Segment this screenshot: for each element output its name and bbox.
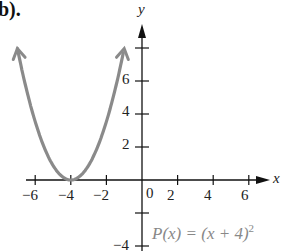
origin-label: 0: [146, 186, 154, 201]
x-tick-label: −2: [93, 188, 109, 203]
x-tick-label: 2: [167, 188, 175, 203]
y-tick-label: 6: [122, 72, 130, 87]
x-tick-label: 4: [204, 188, 212, 203]
y-tick-label: −4: [113, 238, 129, 251]
y-axis-arrow-icon: [138, 24, 146, 38]
y-tick-label: 2: [122, 137, 130, 152]
y-axis-label: y: [138, 2, 145, 17]
parabola-curve: [17, 49, 123, 180]
parabola-graph: [0, 0, 287, 251]
y-tick-label: 4: [122, 104, 130, 119]
x-tick-label: −6: [22, 188, 38, 203]
function-equation: P(x) = (x + 4)2: [152, 222, 254, 244]
x-axis-label: x: [273, 171, 280, 186]
x-tick-label: −4: [58, 188, 74, 203]
x-tick-label: 6: [241, 188, 249, 203]
x-axis-arrow-icon: [256, 176, 270, 184]
